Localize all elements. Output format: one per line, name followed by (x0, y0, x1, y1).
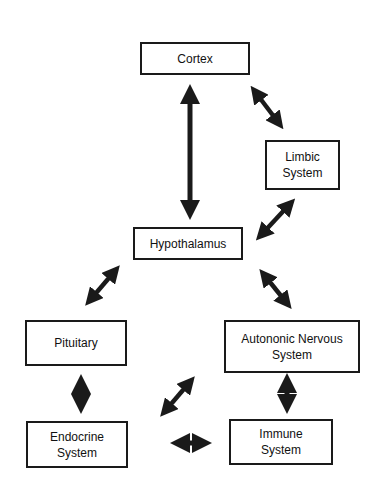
node-autonomic-nervous-system: Autononic Nervous System (224, 320, 360, 373)
node-immune-label-line2: System (261, 442, 301, 458)
node-limbic-system: Limbic System (265, 140, 340, 190)
arrow-autonomic-endocrine (166, 383, 189, 410)
arrow-limbic-hypothalamus (262, 205, 289, 234)
node-immune-label-line1: Immune (259, 426, 302, 442)
node-cortex-label: Cortex (177, 51, 212, 67)
arrow-hypothalamus-autonomic (265, 276, 286, 302)
node-cortex: Cortex (140, 42, 250, 75)
node-pituitary-label: Pituitary (54, 335, 97, 351)
node-hypothalamus: Hypothalamus (133, 227, 243, 260)
node-endocrine-system: Endocrine System (26, 421, 128, 468)
node-immune-system: Immune System (229, 419, 333, 465)
node-endocrine-label-line1: Endocrine (50, 429, 104, 445)
arrow-cortex-limbic (256, 93, 278, 122)
node-pituitary: Pituitary (25, 320, 127, 366)
node-endocrine-label-line2: System (57, 445, 97, 461)
node-autonomic-label-line2: System (272, 347, 312, 363)
node-limbic-label-line1: Limbic (285, 149, 320, 165)
node-autonomic-label-line1: Autononic Nervous (241, 331, 342, 347)
node-limbic-label-line2: System (282, 165, 322, 181)
arrow-hypothalamus-pituitary (91, 272, 114, 299)
node-hypothalamus-label: Hypothalamus (150, 236, 227, 252)
